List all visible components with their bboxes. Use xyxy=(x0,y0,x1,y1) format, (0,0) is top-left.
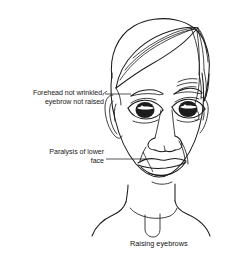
chin xyxy=(152,182,172,184)
illustration-page: Forehead not wrinkled,eyebrow not raised… xyxy=(0,0,240,256)
annotation-forehead-line1: Forehead not wrinkled, xyxy=(33,89,104,97)
left-ear xyxy=(105,95,122,138)
left-eyebrow-not-raised xyxy=(131,90,163,96)
annotation-paralysis-line2: face xyxy=(91,157,104,165)
face-illustration xyxy=(0,0,240,256)
neck-and-shoulders xyxy=(92,184,210,237)
annotation-paralysis: Paralysis of lowerface xyxy=(24,148,104,167)
left-eye xyxy=(128,98,163,123)
annotation-paralysis-line1: Paralysis of lower xyxy=(49,148,104,156)
nose xyxy=(148,110,182,152)
leader-line-forehead xyxy=(103,91,131,94)
right-eye xyxy=(172,97,205,122)
annotation-forehead: Forehead not wrinkled,eyebrow not raised xyxy=(8,89,104,108)
figure-caption: Raising eyebrows xyxy=(130,239,230,248)
annotation-forehead-line2: eyebrow not raised xyxy=(45,98,104,106)
right-ear xyxy=(200,97,208,133)
